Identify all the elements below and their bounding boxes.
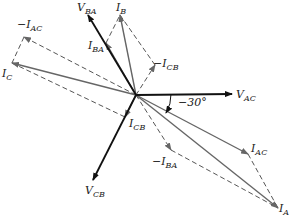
label-i-a: IA xyxy=(278,202,289,217)
label-i-c: IC xyxy=(1,67,12,82)
current-phasors xyxy=(12,15,278,208)
parallelogram-edge xyxy=(12,37,24,63)
i-c-phasor xyxy=(12,63,136,95)
angle-label: −30° xyxy=(178,96,207,109)
construction-lines xyxy=(12,15,278,208)
label-i-b: IB xyxy=(115,1,126,16)
parallelogram-edge xyxy=(106,15,120,43)
label-neg-i-cb: −ICB xyxy=(153,57,179,72)
label-i-ba: IBA xyxy=(87,39,104,54)
angle-arc xyxy=(166,94,171,113)
v-cb-phasor xyxy=(93,95,136,180)
label-i-ac: IAC xyxy=(250,142,267,157)
parallelogram-edge xyxy=(12,63,125,117)
label-v-ba: VBA xyxy=(77,1,97,16)
v-ac-phasor xyxy=(136,94,232,95)
label-i-cb: ICB xyxy=(128,117,145,132)
label-neg-i-ac: −IAC xyxy=(17,18,42,33)
label-neg-i-ba: −IBA xyxy=(152,155,177,170)
phasor-diagram: −30° VBA IB IBA −IAC IC −ICB VAC IAC −IB… xyxy=(0,0,294,218)
label-v-ac: VAC xyxy=(236,88,256,103)
label-v-cb: VCB xyxy=(85,184,105,199)
